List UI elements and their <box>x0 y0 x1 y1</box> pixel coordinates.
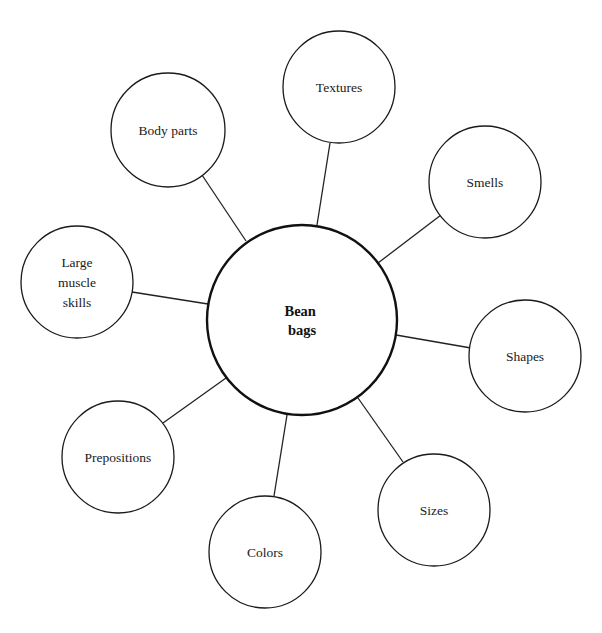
node-label: Body parts <box>139 123 198 138</box>
node-sizes: Sizes <box>378 454 490 566</box>
node-shapes: Shapes <box>469 300 581 412</box>
connector-line-shapes <box>396 335 471 348</box>
node-label-line: Body parts <box>139 123 198 138</box>
node-label-line: Shapes <box>506 349 544 364</box>
node-label: Sizes <box>420 503 449 518</box>
node-label: Largemuscleskills <box>58 255 96 310</box>
node-label-line: Colors <box>247 545 283 560</box>
node-label-line: skills <box>63 295 92 310</box>
node-prepositions: Prepositions <box>62 401 174 513</box>
node-label: Shapes <box>506 349 544 364</box>
node-label-line: muscle <box>58 275 96 290</box>
connector-line-prepositions <box>163 378 226 423</box>
center-circle <box>207 225 397 415</box>
center-label-line-2: bags <box>288 322 317 338</box>
node-label-line: Textures <box>316 80 362 95</box>
node-label: Prepositions <box>85 450 152 465</box>
connector-line-textures <box>317 143 330 225</box>
connector-line-sizes <box>358 398 403 462</box>
node-large-muscle-skills: Largemuscleskills <box>21 226 133 338</box>
center-label-line-1: Bean <box>284 303 315 319</box>
center-node: Bean bags <box>207 225 397 415</box>
node-label-line: Sizes <box>420 503 449 518</box>
connector-line-smells <box>378 215 441 263</box>
connector-line-large-muscle-skills <box>132 292 208 304</box>
connector-line-colors <box>274 415 287 496</box>
node-smells: Smells <box>429 126 541 238</box>
node-label: Textures <box>316 80 362 95</box>
node-label-line: Large <box>61 255 92 270</box>
concept-web-diagram: Body partsTexturesSmellsShapesSizesColor… <box>0 0 602 633</box>
node-label-line: Prepositions <box>85 450 152 465</box>
connector-line-body-parts <box>202 175 246 241</box>
node-body-parts: Body parts <box>111 73 225 187</box>
node-textures: Textures <box>283 31 395 143</box>
node-label: Colors <box>247 545 283 560</box>
node-label: Smells <box>467 175 504 190</box>
node-colors: Colors <box>209 496 321 608</box>
node-label-line: Smells <box>467 175 504 190</box>
